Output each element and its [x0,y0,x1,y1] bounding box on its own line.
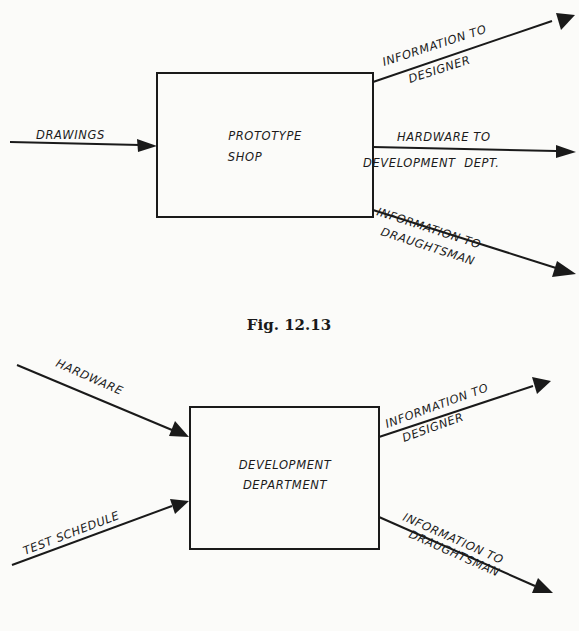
info-to-designer-arrow: INFORMATION TO DESIGNER [379,377,551,445]
test-schedule-input-arrow: TEST SCHEDULE [12,499,189,565]
box-label-line-1: DEVELOPMENT [239,458,332,472]
box-label-line-1: PROTOTYPE [228,129,302,143]
output-2-label-line-1: HARDWARE TO [397,130,491,144]
figure-caption: Fig. 12.13 [247,316,331,334]
hardware-input-arrow: HARDWARE [17,356,189,437]
figure-1: PROTOTYPE SHOP DRAWINGS INFORMATION TO D… [10,13,576,334]
hardware-to-development-arrow: HARDWARE TO DEVELOPMENT DEPT. [363,130,576,170]
arrowhead-icon [170,499,189,514]
prototype-shop-box [157,73,373,217]
arrowhead-icon [169,421,189,437]
info-to-draughtsman-arrow: INFORMATION TO DRAUGHTSMAN [379,510,553,593]
arrowhead-icon [556,145,576,158]
test-schedule-label: TEST SCHEDULE [21,508,122,558]
hardware-label: HARDWARE [54,356,126,398]
diagram-canvas: PROTOTYPE SHOP DRAWINGS INFORMATION TO D… [0,0,579,631]
info-to-designer-arrow: INFORMATION TO DESIGNER [373,13,575,86]
arrowhead-icon [552,261,576,277]
arrowhead-icon [532,377,551,394]
arrowhead-icon [532,578,553,593]
info-to-draughtsman-arrow: INFORMATION TO DRAUGHTSMAN [373,205,576,277]
drawings-input-arrow: DRAWINGS [10,128,157,152]
drawings-label: DRAWINGS [36,128,105,142]
output-2-label-line-2: DEVELOPMENT DEPT. [363,156,500,170]
arrowhead-icon [556,13,575,30]
arrowhead-icon [137,139,157,152]
box-label-line-2: SHOP [228,150,262,164]
box-label-line-2: DEPARTMENT [243,478,328,492]
figure-2: DEVELOPMENT DEPARTMENT HARDWARE TEST SCH… [12,356,553,593]
